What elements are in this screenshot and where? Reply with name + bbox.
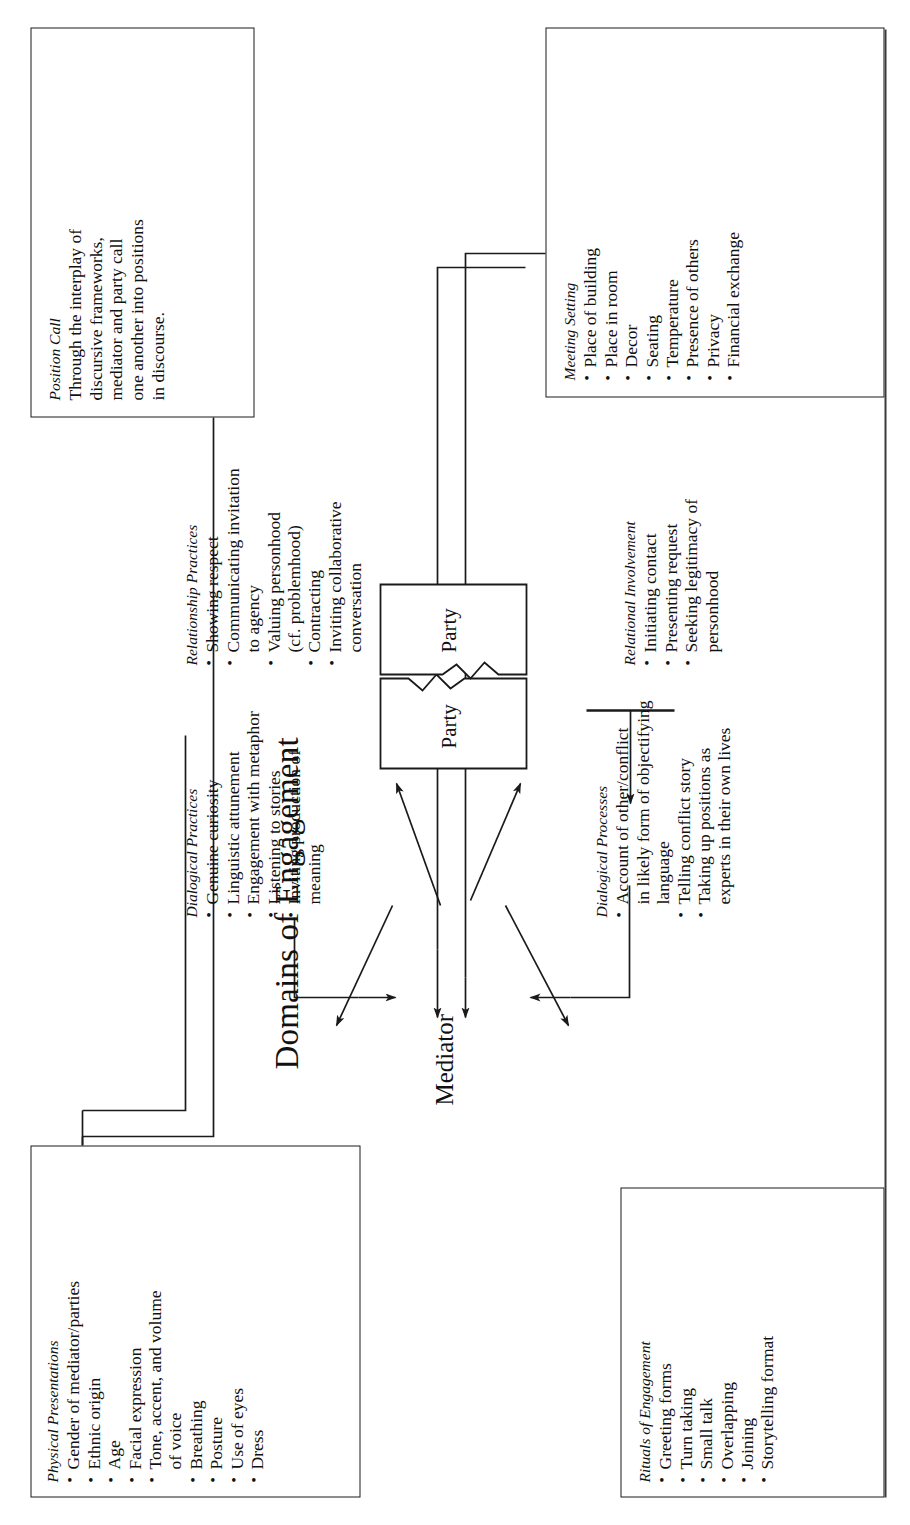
scanned-page: Domains of Engagement Mediator Party Par… — [0, 0, 910, 1525]
box-physical-presentations: Physical Presentations Gender of mediato… — [30, 1145, 360, 1497]
group-relational-involvement: Relational Involvement Initiating contac… — [620, 365, 721, 665]
heading-meeting-setting: Meeting Setting — [560, 40, 578, 380]
list-item: Valuing personhood — [263, 365, 283, 665]
list-item: Tone, accent, and volume — [144, 1156, 164, 1482]
heading-physical-presentations: Physical Presentations — [43, 1156, 61, 1482]
heading-rituals-of-engagement: Rituals of Engagement — [635, 1198, 653, 1482]
list-item: Greeting forms — [654, 1198, 674, 1482]
paragraph-line: in discourse. — [147, 40, 168, 400]
paragraph-line: one another into positions — [126, 40, 147, 400]
list-item: Storytelling format — [756, 1198, 776, 1482]
party-label-b: Party — [436, 608, 461, 652]
list-item: Place of building — [579, 40, 599, 380]
list-item: Contracting — [303, 365, 323, 665]
list-physical-presentations: Gender of mediator/parties Ethnic origin… — [62, 1156, 267, 1482]
box-rituals-of-engagement: Rituals of Engagement Greeting forms Tur… — [620, 1187, 884, 1497]
mediator-label: Mediator — [430, 1013, 458, 1105]
list-item: Inviting collaborative — [324, 365, 344, 665]
list-item: Temperature — [661, 40, 681, 380]
list-item: Seating — [641, 40, 661, 380]
list-item: Decor — [620, 40, 640, 380]
connector-rituals-of-engagement — [82, 735, 185, 1110]
connector-dialogical-practices — [294, 917, 395, 997]
list-item: Breathing — [185, 1156, 205, 1482]
party-pair: Party Party — [378, 580, 528, 770]
list-item: Gender of mediator/parties — [62, 1156, 82, 1482]
heading-dialogical-processes: Dialogical Processes — [592, 587, 610, 917]
paragraph-line: mediator and party call — [105, 40, 126, 400]
list-relational-involvement: Initiating contact Presenting request Se… — [639, 365, 721, 665]
list-item: Joining — [736, 1198, 756, 1482]
arrow-mediator-party-lower — [470, 783, 568, 1025]
arrow-mediator-party-upper — [336, 783, 440, 1025]
list-item: Presence of others — [681, 40, 701, 380]
list-item: Use of eyes — [226, 1156, 246, 1482]
list-item-continuation: (cf. problemhood) — [283, 365, 303, 665]
list-item: Posture — [205, 1156, 225, 1482]
paragraph-line: discursive frameworks, — [85, 40, 106, 400]
heading-position-call: Position Call — [45, 40, 63, 400]
list-item-continuation: personhood — [701, 365, 721, 665]
list-item-continuation: conversation — [344, 365, 364, 665]
list-item: Privacy — [702, 40, 722, 380]
list-item: Turn taking — [675, 1198, 695, 1482]
diagram-canvas: Domains of Engagement Mediator Party Par… — [0, 0, 910, 1525]
list-item: Dress — [246, 1156, 266, 1482]
list-item: Small talk — [695, 1198, 715, 1482]
list-item: Facial expression — [124, 1156, 144, 1482]
list-item: Initiating contact — [639, 365, 659, 665]
arrow-bottom-pair — [437, 949, 465, 1017]
list-item: Presenting request — [660, 365, 680, 665]
list-item: Financial exchange — [722, 40, 742, 380]
list-item-continuation: of voice — [164, 1156, 184, 1482]
list-item: Seeking legitimacy of — [680, 365, 700, 665]
paragraph-line: Through the interplay of — [64, 40, 85, 400]
box-meeting-setting: Meeting Setting Place of building Place … — [545, 27, 884, 397]
list-meeting-setting: Place of building Place in room Decor Se… — [579, 40, 743, 380]
list-item: Age — [103, 1156, 123, 1482]
heading-relational-involvement: Relational Involvement — [620, 365, 638, 665]
box-position-call: Position Call Through the interplay of d… — [30, 27, 254, 417]
list-rituals-of-engagement: Greeting forms Turn taking Small talk Ov… — [654, 1198, 777, 1482]
list-item: Place in room — [600, 40, 620, 380]
party-label-a: Party — [436, 704, 461, 748]
list-item: Ethnic origin — [83, 1156, 103, 1482]
paragraph-position-call: Through the interplay of discursive fram… — [64, 40, 167, 400]
list-item: Overlapping — [716, 1198, 736, 1482]
